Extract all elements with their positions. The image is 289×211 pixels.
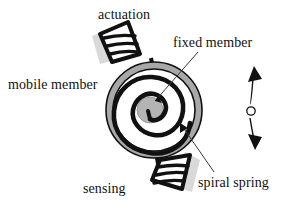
- motion-indicator-arrow: [247, 66, 262, 150]
- label-mobile-member: mobile member: [8, 78, 98, 92]
- label-actuation: actuation: [98, 8, 150, 22]
- label-sensing: sensing: [83, 182, 126, 196]
- arrow-head-down: [248, 134, 262, 150]
- figure-canvas: actuation fixed member mobile member spi…: [0, 0, 289, 211]
- spiral-inner-anchor: [148, 111, 150, 119]
- pivot-circle-icon: [247, 107, 255, 115]
- arrow-head-up: [248, 66, 262, 82]
- label-spiral-spring: spiral spring: [198, 176, 269, 190]
- label-fixed-member: fixed member: [173, 36, 252, 50]
